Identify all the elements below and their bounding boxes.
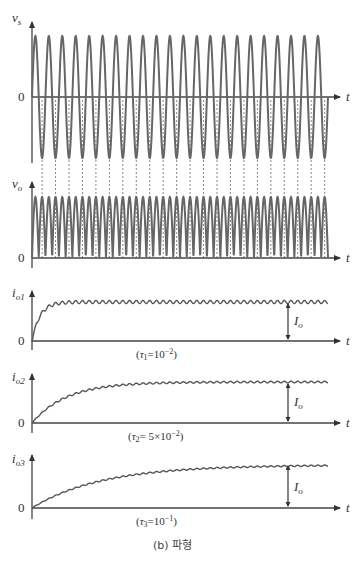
io2-tau-caption: (τ2= 5×10−2)	[128, 429, 184, 444]
panel-vo: vo 0 t	[12, 176, 350, 268]
vo-waveform	[32, 197, 328, 258]
vo-t-label: t	[346, 250, 350, 265]
figure-caption: (b) 파형	[153, 539, 192, 552]
vs-zero-label: 0	[18, 89, 25, 104]
panel-io2: io2 0 t Io (τ2= 5×10−2)	[12, 369, 350, 444]
vs-ylabel: vs	[12, 10, 22, 27]
panel-io1: io1 0 t Io (τ1=10−2)	[12, 285, 350, 362]
vs-t-label: t	[346, 89, 350, 104]
io2-zero-label: 0	[18, 415, 25, 430]
io3-dc-label: Io	[293, 479, 303, 496]
vo-ylabel: vo	[12, 176, 23, 193]
rectifier-waveform-figure: vs 0 t vo 0 t io1 0 t Io (τ1=10−2) io2 0…	[0, 0, 364, 561]
io3-tau-caption: (τ3=10−1)	[136, 514, 177, 529]
io3-ylabel: io3	[12, 451, 25, 468]
io2-dc-label: Io	[293, 394, 303, 411]
panel-io3: io3 0 t Io (τ3=10−1)	[12, 451, 350, 529]
io2-t-label: t	[346, 415, 350, 430]
panel-vs: vs 0 t	[12, 10, 350, 163]
io3-waveform	[32, 465, 328, 508]
io1-tau-caption: (τ1=10−2)	[136, 347, 177, 362]
io1-dc-label: Io	[293, 313, 303, 330]
io1-ylabel: io1	[12, 285, 25, 302]
io1-zero-label: 0	[18, 333, 25, 348]
vo-zero-label: 0	[18, 250, 25, 265]
io3-zero-label: 0	[18, 500, 25, 515]
io2-waveform	[32, 381, 328, 423]
io3-t-label: t	[346, 500, 350, 515]
io2-ylabel: io2	[12, 369, 25, 386]
io1-t-label: t	[346, 333, 350, 348]
io1-waveform	[32, 300, 328, 341]
